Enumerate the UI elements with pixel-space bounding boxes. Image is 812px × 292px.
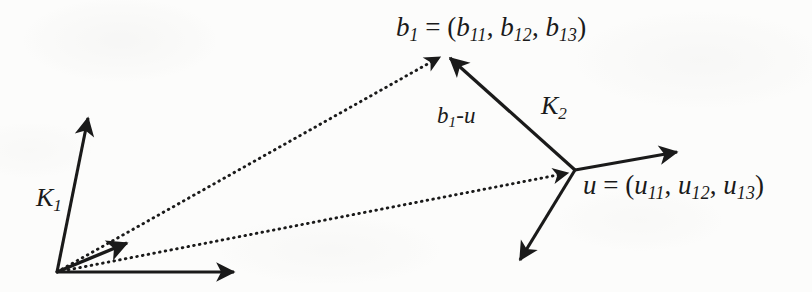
label-u-sep2: , (710, 170, 724, 200)
label-u-c1-subscript: 11 (648, 183, 665, 203)
label-b1-close-paren: ) (577, 12, 586, 42)
label-diff-base: b (437, 103, 449, 128)
k2-down-axis (520, 170, 575, 260)
label-k2-subscript: 2 (558, 104, 567, 123)
label-u-c3: u (723, 170, 737, 200)
label-b1-c2-subscript: 12 (514, 25, 532, 45)
label-b1-c1: b (456, 12, 470, 42)
label-u-close-paren: ) (755, 170, 764, 200)
label-u-equals: = ( (597, 170, 635, 200)
label-u-base: u (583, 170, 597, 200)
label-u-c3-subscript: 13 (737, 183, 755, 203)
label-u-c1: u (634, 170, 648, 200)
label-b1-c3: b (545, 12, 559, 42)
frame-k2-axes (520, 152, 677, 260)
frame-k1-axes (57, 118, 234, 272)
label-frame-k1: K1 (36, 185, 62, 214)
vector-origin-to-u (57, 173, 568, 272)
label-b1-c2: b (500, 12, 514, 42)
label-b1-sep1: , (487, 12, 501, 42)
label-frame-k2: K2 (541, 93, 567, 122)
label-b1-equals: = ( (419, 12, 457, 42)
label-b1-base: b (396, 12, 410, 42)
label-diff-rest: -u (456, 103, 475, 128)
label-k1-base: K (36, 183, 53, 212)
k2-right-axis (575, 152, 677, 170)
label-b1-sep2: , (532, 12, 546, 42)
label-b1-vector: b1 = (b11, b12, b13) (396, 14, 586, 45)
label-k1-subscript: 1 (53, 196, 62, 215)
label-b1-c1-subscript: 11 (470, 25, 487, 45)
label-b1-subscript: 1 (410, 25, 419, 45)
label-difference-vector: b1-u (437, 104, 475, 129)
label-u-c2: u (678, 170, 692, 200)
vector-origin-to-b1 (57, 57, 440, 272)
label-u-sep1: , (665, 170, 679, 200)
label-u-vector: u = (u11, u12, u13) (583, 172, 764, 203)
label-k2-base: K (541, 91, 558, 120)
label-b1-c3-subscript: 13 (559, 25, 577, 45)
vector-diagram-figure: b1 = (b11, b12, b13) u = (u11, u12, u13)… (0, 0, 812, 292)
label-u-c2-subscript: 12 (692, 183, 710, 203)
